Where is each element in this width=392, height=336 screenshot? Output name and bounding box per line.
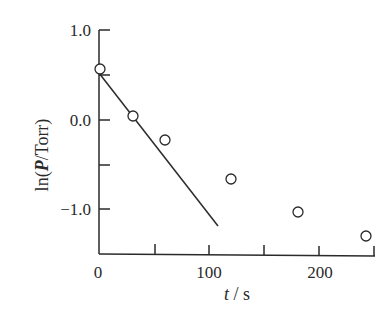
data-point	[160, 135, 170, 145]
y-axis-unit: /Torr	[32, 125, 52, 161]
chart: 1.0 0.0 −1.0 0 100 200 t / s ln(P/Torr)	[0, 0, 392, 336]
y-tick-label: −1.0	[60, 200, 91, 219]
data-point	[293, 207, 303, 217]
x-axis-unit: / s	[229, 284, 250, 304]
axes	[99, 30, 375, 256]
y-axis-prefix: ln	[32, 177, 52, 191]
data-point	[95, 64, 105, 74]
x-tick-label: 200	[307, 263, 333, 282]
data-point	[128, 111, 138, 121]
y-tick-label: 0.0	[70, 111, 91, 130]
x-axis	[99, 254, 375, 256]
data-point	[226, 174, 236, 184]
x-tick-label: 100	[196, 263, 222, 282]
data-points	[95, 64, 371, 241]
y-axis-close-paren: )	[32, 119, 53, 125]
fit-line	[99, 73, 218, 226]
data-point	[361, 231, 371, 241]
y-axis-label: ln(P/Torr)	[32, 119, 53, 192]
x-axis-label: t / s	[224, 284, 250, 304]
x-tick-label: 0	[94, 263, 103, 282]
y-tick-label: 1.0	[70, 21, 91, 40]
